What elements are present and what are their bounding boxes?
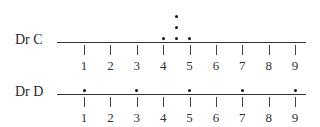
tick-label: 8 [262,58,276,74]
data-dot [294,89,297,92]
tick-label: 9 [288,58,302,74]
axis-tick [137,45,138,55]
axis-tick [242,45,243,55]
axis-tick [110,45,111,55]
axis-tick [242,97,243,107]
axis-tick [84,45,85,55]
tick-label: 3 [130,58,144,74]
axis-tick [110,97,111,107]
data-dot [188,37,191,40]
tick-label: 8 [262,110,276,126]
axis-tick [137,97,138,107]
axis-tick [163,45,164,55]
row-label: Dr C [15,32,43,48]
tick-label: 9 [288,110,302,126]
tick-label: 7 [235,110,249,126]
tick-label: 6 [209,110,223,126]
axis-line [57,42,306,43]
axis-tick [269,97,270,107]
data-dot [83,89,86,92]
tick-label: 4 [156,58,170,74]
row-label: Dr D [15,84,43,100]
tick-label: 2 [103,58,117,74]
data-dot [175,15,178,18]
tick-label: 7 [235,58,249,74]
axis-tick [295,45,296,55]
axis-line [57,94,306,95]
axis-tick [163,97,164,107]
tick-label: 4 [156,110,170,126]
tick-label: 6 [209,58,223,74]
axis-tick [190,45,191,55]
data-dot [241,89,244,92]
axis-tick [190,97,191,107]
axis-tick [216,97,217,107]
axis-tick [269,45,270,55]
data-dot [188,89,191,92]
data-dot [135,89,138,92]
tick-label: 1 [77,58,91,74]
tick-label: 5 [183,58,197,74]
axis-tick [216,45,217,55]
data-dot [175,37,178,40]
data-dot [162,37,165,40]
data-dot [175,26,178,29]
tick-label: 2 [103,110,117,126]
tick-label: 5 [183,110,197,126]
axis-tick [295,97,296,107]
tick-label: 3 [130,110,144,126]
axis-tick [84,97,85,107]
tick-label: 1 [77,110,91,126]
